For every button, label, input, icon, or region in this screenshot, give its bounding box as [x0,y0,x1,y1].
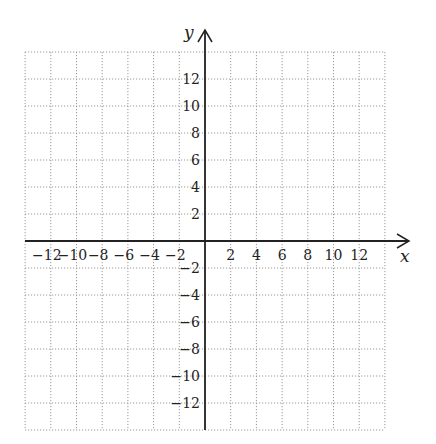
x-tick-label: 6 [278,247,287,263]
x-tick-label: −6 [114,247,135,263]
y-tick-label: 2 [191,206,200,222]
x-tick-label: 8 [303,247,312,263]
y-tick-label: 10 [182,98,200,114]
x-tick-label: 12 [350,247,368,263]
coordinate-plane: x y −12−10−8−6−4−224681012 12108642−2−4−… [0,0,436,444]
x-tick-label: −10 [58,247,88,263]
y-tick-label: 6 [191,152,200,168]
x-tick-label: 2 [226,247,235,263]
x-tick-label: −4 [139,247,160,263]
axes [25,30,409,430]
x-tick-label: 10 [325,247,343,263]
y-tick-label: 12 [182,71,200,87]
y-axis-label: y [183,22,194,42]
y-tick-label: −10 [170,368,200,384]
x-tick-label: 4 [252,247,261,263]
y-tick-label: −4 [179,287,200,303]
y-tick-label: 8 [191,125,200,141]
y-tick-label: −8 [179,341,200,357]
y-tick-label: 4 [191,179,200,195]
x-tick-label: −8 [88,247,109,263]
x-axis-label: x [400,246,410,266]
x-tick-labels: −12−10−8−6−4−224681012 [32,247,368,263]
y-tick-label: −6 [179,314,200,330]
y-tick-label: −2 [179,260,200,276]
y-tick-label: −12 [170,395,200,411]
